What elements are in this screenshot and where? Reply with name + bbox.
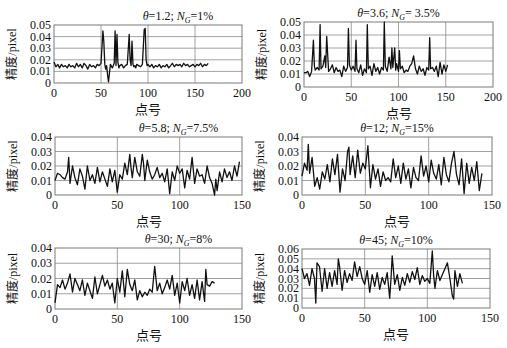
figure-canvas: 00.010.020.030.040.05050100150200θ=1.2; … bbox=[0, 0, 507, 348]
chart-title: θ=12; NG=15% bbox=[360, 121, 434, 137]
chart-panel-theta-3-6: 00.010.020.030.040.05050100150200θ=3.6; … bbox=[254, 6, 502, 121]
chart-panel-theta-45: 00.010.020.030.040.050.06050100150θ=45; … bbox=[252, 233, 499, 342]
y-tick-label: 0.03 bbox=[31, 256, 52, 270]
chart-panel-theta-30: 00.010.020.030.04050100150θ=30; NG=8%点号精… bbox=[5, 232, 251, 343]
x-tick-label: 50 bbox=[359, 198, 371, 212]
chart-title: θ=45; NG=10% bbox=[359, 233, 433, 249]
y-tick-label: 0.02 bbox=[280, 54, 301, 68]
y-axis-label: 精度/pixel bbox=[254, 28, 269, 80]
chart-panel-theta-12: 00.010.020.030.04050100150θ=12; NG=15%点号… bbox=[252, 121, 501, 229]
x-tick-label: 150 bbox=[233, 198, 251, 212]
y-axis-label: 精度/pixel bbox=[252, 252, 267, 304]
chart-title: θ=3.6; NG= 3.5% bbox=[357, 6, 440, 22]
x-tick-label: 0 bbox=[52, 198, 58, 212]
x-tick-label: 100 bbox=[171, 198, 189, 212]
x-tick-label: 150 bbox=[233, 312, 251, 326]
x-tick-label: 0 bbox=[301, 90, 307, 104]
x-tick-label: 50 bbox=[111, 198, 123, 212]
x-axis-label: 点号 bbox=[384, 214, 410, 229]
chart-panel-theta-1-2: 00.010.020.030.040.05050100150200θ=1.2; … bbox=[4, 9, 251, 117]
x-axis-label: 点号 bbox=[386, 106, 412, 121]
y-tick-label: 0.04 bbox=[280, 28, 301, 42]
x-axis-label: 点号 bbox=[136, 328, 162, 343]
x-axis-label: 点号 bbox=[136, 214, 162, 229]
y-axis-label: 精度/pixel bbox=[252, 140, 267, 192]
x-tick-label: 200 bbox=[484, 90, 502, 104]
y-axis-label: 精度/pixel bbox=[5, 252, 20, 304]
y-tick-label: 0.01 bbox=[31, 287, 52, 301]
x-tick-label: 50 bbox=[359, 311, 371, 325]
y-axis-label: 精度/pixel bbox=[5, 140, 20, 192]
y-tick-label: 0.02 bbox=[31, 272, 52, 286]
y-axis-label: 精度/pixel bbox=[4, 28, 19, 80]
x-tick-label: 0 bbox=[51, 86, 57, 100]
y-tick-label: 0.04 bbox=[31, 241, 52, 255]
x-axis-label: 点号 bbox=[383, 327, 409, 342]
x-tick-label: 50 bbox=[345, 90, 357, 104]
x-tick-label: 150 bbox=[483, 198, 501, 212]
x-tick-label: 100 bbox=[390, 90, 408, 104]
chart-title: θ=5.8; NG=7.5% bbox=[139, 121, 219, 137]
x-tick-label: 100 bbox=[420, 198, 438, 212]
y-tick-label: 0.02 bbox=[31, 159, 52, 173]
x-tick-label: 200 bbox=[233, 86, 251, 100]
x-tick-label: 0 bbox=[299, 311, 305, 325]
x-tick-label: 100 bbox=[418, 311, 436, 325]
chart-title: θ=1.2; NG=1% bbox=[143, 9, 214, 25]
chart-panel-theta-5-8: 00.010.020.030.04050100150θ=5.8; NG=7.5%… bbox=[5, 121, 251, 229]
y-tick-label: 0.02 bbox=[278, 159, 299, 173]
x-tick-label: 150 bbox=[186, 86, 204, 100]
y-tick-label: 0.03 bbox=[280, 41, 301, 55]
x-tick-label: 50 bbox=[111, 312, 123, 326]
chart-title: θ=30; NG=8% bbox=[145, 232, 213, 248]
x-tick-label: 50 bbox=[95, 86, 107, 100]
x-tick-label: 0 bbox=[299, 198, 305, 212]
x-tick-label: 150 bbox=[437, 90, 455, 104]
y-tick-label: 0.03 bbox=[31, 145, 52, 159]
y-tick-label: 0.06 bbox=[278, 242, 299, 256]
y-tick-label: 0.01 bbox=[31, 174, 52, 188]
y-tick-label: 0.05 bbox=[30, 18, 51, 32]
y-tick-label: 0.04 bbox=[31, 130, 52, 144]
x-tick-label: 0 bbox=[52, 312, 58, 326]
y-tick-label: 0.01 bbox=[278, 174, 299, 188]
y-tick-label: 0.04 bbox=[278, 130, 299, 144]
x-tick-label: 150 bbox=[481, 311, 499, 325]
x-tick-label: 100 bbox=[171, 312, 189, 326]
x-axis-label: 点号 bbox=[135, 102, 161, 117]
y-tick-label: 0.03 bbox=[278, 145, 299, 159]
x-tick-label: 100 bbox=[139, 86, 157, 100]
y-tick-label: 0.01 bbox=[280, 67, 301, 81]
y-tick-label: 0.05 bbox=[280, 15, 301, 29]
